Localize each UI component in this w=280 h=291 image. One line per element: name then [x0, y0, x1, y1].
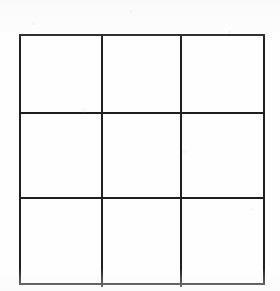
- grid-cell-r3c1[interactable]: [21, 199, 103, 287]
- grid-row: [21, 114, 263, 199]
- grid-cell-r3c2[interactable]: [103, 199, 183, 287]
- grid-cell-r2c2[interactable]: [103, 114, 183, 199]
- grid-cell-r1c1[interactable]: [21, 36, 103, 114]
- grid-cell-r2c1[interactable]: [21, 114, 103, 199]
- grid-cell-r1c2[interactable]: [103, 36, 183, 114]
- grid-row: [21, 199, 263, 287]
- grid-cell-r2c3[interactable]: [182, 114, 263, 199]
- grid-figure: [19, 34, 265, 285]
- grid-cell-r1c3[interactable]: [182, 36, 263, 114]
- grid-cell-r3c3[interactable]: [182, 199, 263, 287]
- grid-row: [21, 36, 263, 114]
